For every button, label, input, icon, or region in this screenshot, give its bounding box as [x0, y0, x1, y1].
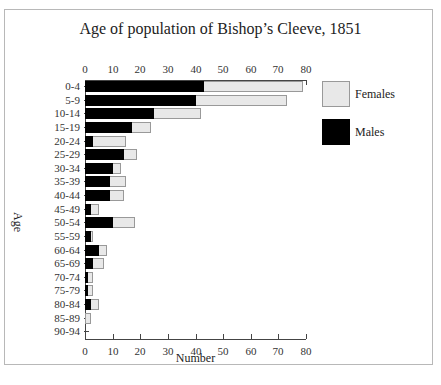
- bar-males: [85, 231, 91, 242]
- y-tick-label: 25-29: [30, 148, 80, 160]
- bar-males: [85, 122, 132, 133]
- y-tick-label: 0-4: [30, 80, 80, 92]
- bar-males: [85, 285, 88, 296]
- y-axis-label: Age: [10, 212, 25, 232]
- bar-males: [85, 163, 113, 174]
- x-tick-bottom: [196, 334, 197, 339]
- x-tick-label-top: 40: [181, 63, 211, 75]
- bar-males: [85, 204, 91, 215]
- y-tick-label: 75-79: [30, 284, 80, 296]
- plot-area: 00101020203030404050506060707080800-45-9…: [85, 80, 306, 339]
- bar-males: [85, 245, 99, 256]
- y-tick-label: 60-64: [30, 244, 80, 256]
- bar-males: [85, 299, 91, 310]
- x-tick-top: [306, 80, 307, 85]
- x-tick-bottom: [113, 334, 114, 339]
- bar-males: [85, 176, 110, 187]
- y-tick-label: 90-94: [30, 325, 80, 337]
- y-tick-label: 80-84: [30, 298, 80, 310]
- bar-males: [85, 190, 110, 201]
- x-tick-label-top: 70: [263, 63, 293, 75]
- y-tick-label: 40-44: [30, 189, 80, 201]
- legend-label-males: Males: [355, 125, 384, 140]
- legend-swatch-males: [322, 119, 350, 145]
- y-tick-label: 35-39: [30, 175, 80, 187]
- x-tick-bottom: [223, 334, 224, 339]
- x-tick-bottom: [278, 334, 279, 339]
- y-tick-label: 5-9: [30, 94, 80, 106]
- x-tick-bottom: [85, 334, 86, 339]
- y-tick-label: 20-24: [30, 135, 80, 147]
- x-tick-label-top: 0: [70, 63, 100, 75]
- y-tick-label: 15-19: [30, 121, 80, 133]
- y-tick-label: 85-89: [30, 312, 80, 324]
- x-tick-bottom: [306, 334, 307, 339]
- bar-males: [85, 108, 154, 119]
- bar-males: [85, 258, 93, 269]
- y-tick-label: 30-34: [30, 162, 80, 174]
- x-tick-label-top: 20: [125, 63, 155, 75]
- x-tick-label-top: 10: [98, 63, 128, 75]
- y-tick: [84, 331, 89, 332]
- bar-males: [85, 81, 204, 92]
- x-tick-bottom: [251, 334, 252, 339]
- y-tick-label: 65-69: [30, 257, 80, 269]
- x-tick-bottom: [140, 334, 141, 339]
- legend-label-females: Females: [355, 87, 395, 102]
- x-tick-label-top: 60: [236, 63, 266, 75]
- bar-males: [85, 95, 196, 106]
- bar-males: [85, 149, 124, 160]
- chart-title: Age of population of Bishop’s Cleeve, 18…: [0, 20, 441, 38]
- y-tick-label: 10-14: [30, 107, 80, 119]
- y-tick-label: 70-74: [30, 271, 80, 283]
- bar-males: [85, 272, 88, 283]
- y-tick-label: 55-59: [30, 230, 80, 242]
- y-tick-label: 50-54: [30, 216, 80, 228]
- x-tick-label-top: 30: [153, 63, 183, 75]
- x-tick-bottom: [168, 334, 169, 339]
- x-axis-label: Number: [85, 351, 306, 366]
- x-tick-label-top: 80: [291, 63, 321, 75]
- bar-males: [85, 217, 113, 228]
- x-tick-label-top: 50: [208, 63, 238, 75]
- x-axis-bottom: [85, 339, 306, 340]
- y-tick-label: 45-49: [30, 203, 80, 215]
- bar-males: [85, 136, 93, 147]
- legend-swatch-females: [322, 81, 350, 107]
- bar-females: [85, 313, 91, 324]
